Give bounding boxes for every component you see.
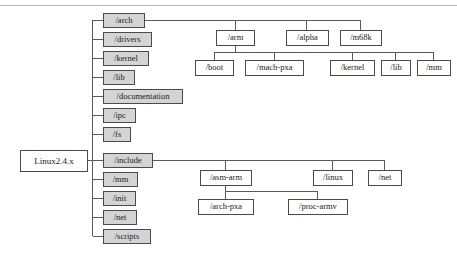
tree-node-arm-mm[interactable]: /mm [418, 61, 451, 76]
m68k-node-label: /m68k [350, 32, 372, 42]
tree-node-kernel[interactable]: /kernel [104, 52, 149, 66]
mm-node-label: /mm [113, 174, 129, 184]
arch-node-label: /arch [116, 15, 134, 25]
tree-node-arm-boot[interactable]: /boot [196, 61, 234, 76]
tree-node-include-net[interactable]: /net [369, 171, 402, 186]
lib-node-label: /lib [113, 72, 124, 82]
tree-node-root[interactable]: Linux2.4.x [21, 151, 88, 172]
fs-node-label: /fs [113, 129, 122, 139]
tree-node-m68k[interactable]: /m68k [341, 31, 382, 46]
init-node-label: /init [113, 193, 127, 203]
tree-node-arch-pxa[interactable]: /arch-pxa [199, 200, 254, 215]
kernel-node-label: /kernel [114, 53, 138, 63]
arm-node-label: /arm [228, 32, 244, 42]
proc-armv-node-label: /proc-armv [299, 201, 338, 211]
documentation-node-label: /documentation [117, 91, 171, 101]
drivers-node-label: /drivers [115, 34, 141, 44]
include-net-node-label: /net [379, 172, 392, 182]
tree-node-documentation[interactable]: /documentation [104, 90, 183, 104]
kernel-source-tree-diagram: Linux2.4.x /arch /drivers /kernel /lib [0, 0, 457, 263]
tree-node-arm-kernel[interactable]: /kernel [331, 61, 375, 76]
ipc-node-label: /ipc [113, 110, 126, 120]
tree-node-asm-arm[interactable]: /asm-arm [201, 171, 252, 186]
scripts-node-label: /scripts [115, 231, 140, 241]
tree-node-net[interactable]: /net [104, 211, 137, 225]
root-node-label: Linux2.4.x [34, 156, 74, 166]
include-node-label: /include [114, 155, 142, 165]
tree-node-arm-lib[interactable]: /lib [382, 61, 411, 76]
tree-node-arch[interactable]: /arch [104, 14, 145, 28]
arm-machpxa-node-label: /mach-pxa [257, 62, 293, 72]
tree-node-fs[interactable]: /fs [104, 128, 131, 142]
alpha-node-label: /alpha [297, 32, 318, 42]
asm-arm-node-label: /asm-arm [210, 172, 242, 182]
tree-node-lib[interactable]: /lib [104, 71, 135, 85]
arm-boot-node-label: /boot [206, 62, 224, 72]
tree-node-init[interactable]: /init [104, 192, 136, 206]
tree-node-arm-machpxa[interactable]: /mach-pxa [246, 61, 304, 76]
tree-node-linux[interactable]: /linux [314, 171, 353, 186]
arm-lib-node-label: /lib [390, 62, 401, 72]
tree-node-drivers[interactable]: /drivers [104, 33, 152, 47]
tree-node-scripts[interactable]: /scripts [104, 230, 151, 244]
tree-node-include[interactable]: /include [104, 154, 153, 168]
arch-pxa-node-label: /arch-pxa [210, 201, 242, 211]
arm-kernel-node-label: /kernel [341, 62, 365, 72]
diagram-canvas: Linux2.4.x /arch /drivers /kernel /lib [0, 0, 457, 263]
tree-node-alpha[interactable]: /alpha [287, 31, 329, 46]
arm-mm-node-label: /mm [426, 62, 442, 72]
tree-node-proc-armv[interactable]: /proc-armv [289, 200, 348, 215]
tree-node-ipc[interactable]: /ipc [104, 109, 136, 123]
tree-node-arm[interactable]: /arm [217, 31, 255, 46]
tree-node-mm[interactable]: /mm [104, 173, 138, 187]
net-node-label: /net [114, 212, 127, 222]
linux-node-label: /linux [323, 172, 344, 182]
